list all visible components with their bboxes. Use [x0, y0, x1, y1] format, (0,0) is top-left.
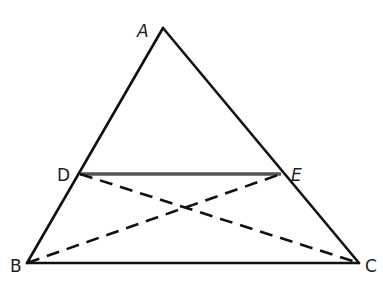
- label-e: E: [291, 165, 302, 185]
- segment-ac: [163, 28, 359, 263]
- label-d: D: [57, 165, 70, 185]
- triangle-diagram: A D E B C: [0, 0, 383, 289]
- label-a: A: [136, 21, 149, 41]
- segment-ab: [27, 28, 163, 263]
- label-c: C: [365, 256, 377, 276]
- label-b: B: [10, 256, 22, 276]
- segment-be: [27, 174, 281, 263]
- segment-dc: [80, 174, 359, 263]
